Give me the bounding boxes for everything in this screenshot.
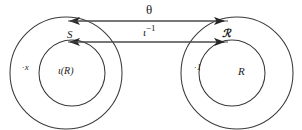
left-outer-region-label: S [67,29,73,40]
left-margin-mark-label: ·x [22,63,29,72]
right-inner-circle [199,40,265,106]
bottom-arrow-label-exponent: −1 [146,23,155,33]
right-inner-region-label: R [238,66,245,77]
right-outer-region-label: ℛ [222,28,231,39]
diagram-canvas [0,0,302,130]
diagram-figure: θ ι−1 S ℛ ι(R) R ·x ·1 [0,0,302,130]
bottom-arrow-label: ι−1 [143,24,155,38]
top-arrow-label: θ [146,3,152,16]
left-inner-region-label: ι(R) [58,66,74,76]
right-outer-circle [181,17,293,129]
right-margin-mark-label: ·1 [194,63,202,72]
